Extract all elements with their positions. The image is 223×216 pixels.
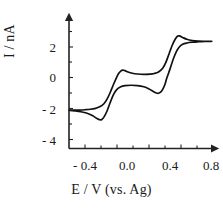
cv-trace <box>69 36 212 120</box>
y-tick-label-0: 0 <box>20 71 56 84</box>
y-tick-label-minus-2: - 2 <box>20 103 56 116</box>
x-tick-label-0-8: 0.8 <box>203 159 219 172</box>
x-tick-label-minus-0-4: - 0.4 <box>73 159 97 172</box>
x-axis-title: E / V (vs. Ag) <box>0 182 223 198</box>
x-tick-label-0-4: 0.4 <box>162 159 178 172</box>
cyclic-voltammogram-figure: 2 0 - 2 - 4 - 0.4 0.0 0.4 0.8 E / V (vs.… <box>0 0 223 216</box>
y-tick-label-minus-4: - 4 <box>20 134 56 147</box>
x-tick-label-0-0: 0.0 <box>119 159 135 172</box>
y-axis-title: I / nA <box>2 24 18 58</box>
y-tick-label-2: 2 <box>20 41 56 54</box>
